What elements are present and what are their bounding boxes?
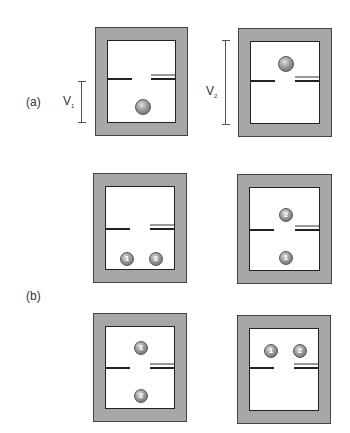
partition-left [250, 367, 274, 369]
partition-left [106, 367, 130, 369]
v2-symbol: V [206, 84, 214, 98]
partition-right [150, 228, 174, 230]
partition-right [151, 78, 175, 80]
partition-right-upper [151, 74, 175, 76]
particle-2: 2 [149, 252, 163, 266]
v1-symbol: V [63, 94, 71, 108]
particle [135, 99, 151, 115]
chamber: 1 2 [105, 326, 175, 409]
panel-b-label: (b) [26, 289, 41, 303]
partition-right [295, 229, 319, 231]
particle-1: 1 [120, 252, 134, 266]
volume-v2-label: V2 [206, 84, 217, 99]
partition-right-upper [150, 224, 174, 226]
partition-right [295, 80, 319, 82]
particle [278, 56, 294, 72]
v2-subscript: 2 [214, 93, 217, 99]
panel-a-label: (a) [26, 95, 41, 109]
particle-2: 2 [134, 389, 148, 403]
v1-subscript: 1 [71, 103, 74, 109]
container-b-2: 2 1 [237, 174, 332, 284]
container-b-1: 1 2 [93, 173, 187, 283]
partition-right-upper [295, 225, 319, 227]
container-a-left [95, 27, 188, 136]
particle-2: 2 [293, 344, 307, 358]
particle-2: 2 [279, 208, 293, 222]
partition-right-upper [295, 76, 319, 78]
partition-right-upper [150, 363, 174, 365]
partition-right-upper [294, 363, 318, 365]
chamber [250, 41, 320, 124]
volume-v1-bracket [81, 81, 90, 123]
partition-left [250, 229, 274, 231]
volume-v1-label: V1 [63, 94, 74, 109]
partition-left [108, 78, 132, 80]
partition-left [106, 228, 130, 230]
partition-right [150, 367, 174, 369]
partition-left [251, 80, 275, 82]
container-a-right [238, 28, 332, 137]
particle-1: 1 [279, 251, 293, 265]
chamber: 2 1 [249, 187, 320, 271]
container-b-4: 1 2 [237, 315, 331, 424]
particle-1: 1 [134, 341, 148, 355]
chamber: 1 2 [249, 328, 319, 411]
partition-right [294, 367, 318, 369]
particle-1: 1 [264, 344, 278, 358]
chamber [107, 40, 176, 123]
container-b-3: 1 2 [93, 313, 187, 422]
chamber: 1 2 [105, 186, 175, 270]
volume-v2-bracket [225, 40, 234, 125]
